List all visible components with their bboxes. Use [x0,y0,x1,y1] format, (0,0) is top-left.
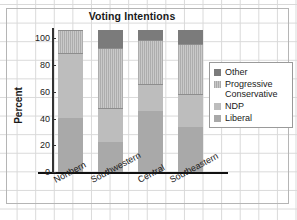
y-axis-label: Percent [13,76,24,136]
segment-southwestern-ndp [98,108,123,142]
legend-label-other: Other [225,67,248,77]
chart-title: Voting Intentions [62,10,202,22]
segment-southeastern-other [178,30,203,44]
y-tick-label-20: 20 [20,141,50,150]
legend-label-pc-line1: Progressive [225,79,273,89]
y-tick-label-100: 100 [20,34,50,43]
voting-intentions-chart: Voting Intentions Percent 100 80 60 40 2… [0,0,297,220]
legend-label-liberal: Liberal [225,113,252,123]
y-tick-label-80: 80 [20,61,50,70]
legend-item-ndp[interactable]: NDP [214,101,289,111]
legend-label-pc-line2: Conservative [225,89,278,99]
legend-swatch-liberal-icon [214,115,221,122]
segment-northern-progressive-conservative [58,30,83,53]
bar-central[interactable] [138,30,163,172]
legend-swatch-other-icon [214,69,221,76]
legend-swatch-ndp-icon [214,103,221,110]
y-tick-label-40: 40 [20,115,50,124]
legend-swatch-progressive-conservative-icon [214,81,221,88]
legend-item-progressive-conservative[interactable]: ProgressiveConservative [214,79,289,99]
bar-northern[interactable] [58,30,83,172]
legend-item-other[interactable]: Other [214,67,289,77]
chart-legend: Other ProgressiveConservative NDP Libera… [209,62,293,128]
segment-southeastern-progressive-conservative [178,44,203,94]
legend-item-liberal[interactable]: Liberal [214,113,289,123]
segment-central-ndp [138,84,163,111]
y-tick-label-0: 0 [20,168,50,177]
segment-central-other [138,30,163,40]
segment-southwestern-other [98,30,123,48]
bar-southeastern[interactable] [178,30,203,172]
segment-southeastern-ndp [178,94,203,127]
y-tick-label-60: 60 [20,88,50,97]
bar-southwestern[interactable] [98,30,123,172]
legend-label-ndp: NDP [225,101,244,111]
segment-northern-ndp [58,53,83,118]
segment-southwestern-progressive-conservative [98,48,123,108]
legend-label-progressive-conservative: ProgressiveConservative [225,79,278,99]
segment-central-progressive-conservative [138,40,163,84]
